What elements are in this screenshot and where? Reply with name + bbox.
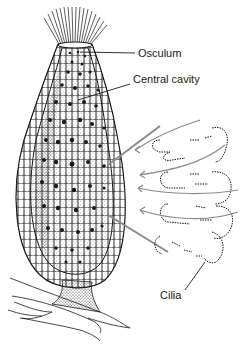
osculum-spicules — [44, 7, 107, 44]
central-cavity-label: Central cavity — [133, 74, 200, 85]
osculum-label: Osculum — [138, 48, 181, 59]
cilia-label: Cilia — [160, 290, 181, 301]
sponge-diagram — [0, 0, 250, 350]
water-flow-arrows — [135, 120, 238, 219]
